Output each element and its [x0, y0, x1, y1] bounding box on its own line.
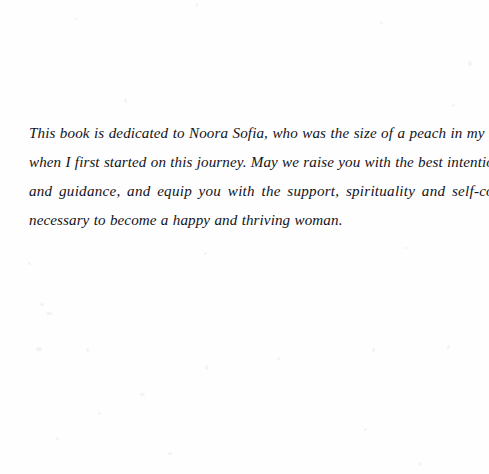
dedication-line: necessary to become a happy and thriving…: [29, 206, 461, 235]
scan-speckle: [364, 428, 367, 431]
scan-speckle: [28, 262, 31, 265]
scan-speckle: [168, 452, 172, 455]
scan-speckle: [140, 393, 145, 396]
scan-speckle: [204, 252, 207, 255]
scan-speckle: [36, 347, 42, 351]
scan-speckle: [468, 61, 472, 66]
dedication-line: and guidance, and equip you with the sup…: [29, 177, 461, 206]
scan-speckle: [380, 21, 383, 24]
scan-speckle: [98, 412, 101, 415]
document-page: This book is dedicated to Noora Sofia, w…: [0, 0, 489, 474]
dedication-line: when I first started on this journey. Ma…: [29, 148, 461, 177]
scan-speckle: [56, 437, 59, 440]
scan-speckle: [86, 348, 89, 352]
scan-speckle: [372, 348, 375, 352]
scan-speckle: [404, 247, 407, 249]
scan-speckle: [40, 303, 44, 306]
dedication-line: This book is dedicated to Noora Sofia, w…: [29, 119, 461, 148]
scan-speckle: [196, 3, 198, 7]
scan-speckle: [124, 98, 127, 103]
scan-speckle: [75, 18, 78, 20]
scan-speckle: [447, 345, 450, 349]
scan-speckle: [205, 365, 208, 370]
dedication-text-block: This book is dedicated to Noora Sofia, w…: [29, 119, 461, 235]
scan-speckle: [46, 312, 52, 315]
scan-speckle: [452, 104, 455, 107]
scan-speckle: [277, 357, 280, 360]
scan-speckle: [418, 462, 421, 466]
